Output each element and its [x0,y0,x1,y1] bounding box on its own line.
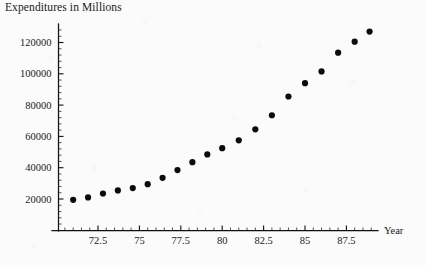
data-point-series [70,28,373,202]
data-point [174,167,180,173]
data-point [115,187,121,193]
data-point [269,112,275,118]
data-point [335,50,341,56]
x-axis-major-ticks [98,226,346,231]
data-point [219,145,225,151]
y-axis-major-ticks [59,43,64,200]
x-tick-label: 85 [300,235,311,246]
x-tick-label: 87.5 [337,235,355,246]
data-point [189,159,195,165]
data-point [100,190,106,196]
y-tick-label: 60000 [25,131,51,142]
data-point [159,175,165,181]
x-axis-label: Year [384,225,404,236]
data-point [366,28,372,34]
y-tick-label: 80000 [25,100,51,111]
data-point [204,151,210,157]
y-tick-label: 120000 [20,37,52,48]
y-tick-label: 40000 [25,162,51,173]
data-point [302,80,308,86]
data-point [285,93,291,99]
x-tick-label: 80 [217,235,228,246]
data-point [145,181,151,187]
x-tick-label: 82.5 [254,235,272,246]
y-axis-tick-labels: 20000400006000080000100000120000 [20,37,52,205]
data-point [318,68,324,74]
y-tick-label: 100000 [20,68,52,79]
x-axis: 72.57577.58082.58587.5 Year [52,225,404,246]
x-tick-label: 72.5 [89,235,107,246]
data-point [70,197,76,203]
data-point [130,185,136,191]
data-point [236,137,242,143]
data-point [85,194,91,200]
y-axis: 20000400006000080000100000120000 [20,24,64,231]
chart-figure: Expenditures in Millions 200004000060000… [0,0,425,267]
y-tick-label: 20000 [25,194,51,205]
scatter-plot: 20000400006000080000100000120000 72.5757… [0,0,425,267]
data-point [352,39,358,45]
x-tick-label: 77.5 [172,235,190,246]
x-axis-tick-labels: 72.57577.58082.58587.5 [89,235,356,246]
data-point [252,126,258,132]
x-tick-label: 75 [134,235,145,246]
